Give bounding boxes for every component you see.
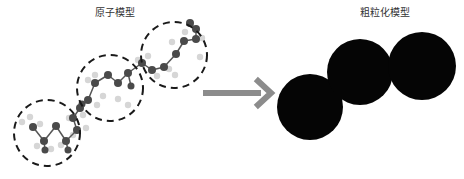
cg-bead [327,39,393,105]
hydrogen-atom [169,39,175,45]
mapping-diagram [0,0,464,179]
heavy-atom [148,66,156,74]
heavy-atom [42,147,49,154]
hydrogen-atom [100,93,106,99]
heavy-atom [52,122,60,130]
heavy-atom [65,147,72,154]
right-arrow-icon [203,81,271,105]
heavy-atom [104,71,112,79]
hydrogen-atom [182,29,188,35]
hydrogen-atom [115,96,121,102]
hydrogen-atom [154,73,160,79]
heavy-atom [29,123,37,131]
hydrogen-atom [85,77,91,83]
hydrogen-atom [27,114,33,120]
heavy-atom [180,37,188,45]
heavy-atom [91,79,99,87]
hydrogen-atom [80,112,86,118]
heavy-atom [124,69,132,77]
hydrogen-atom [94,102,100,108]
hydrogen-atom [172,72,178,78]
heavy-atom [114,79,122,87]
heavy-atom [192,35,200,43]
heavy-atom [62,137,70,145]
heavy-atom [40,137,48,145]
hydrogen-atom [19,119,25,125]
atom-group-circle [14,100,80,166]
arrow-shaft [203,90,261,96]
hydrogen-atom [83,125,89,131]
atomistic-model [14,19,207,166]
hydrogen-atom [48,146,54,152]
hydrogen-atom [197,54,203,60]
hydrogen-atom [145,53,151,59]
heavy-atom [160,63,168,71]
heavy-atom [172,50,180,58]
heavy-atom [69,114,77,122]
cg-bead [388,32,456,100]
hydrogen-atom [37,121,43,127]
hydrogen-atom [125,102,131,108]
coarse-grained-model [277,32,456,140]
hydrogen-atom [34,143,40,149]
hydrogen-atom [92,72,98,78]
heavy-atom [128,83,135,90]
